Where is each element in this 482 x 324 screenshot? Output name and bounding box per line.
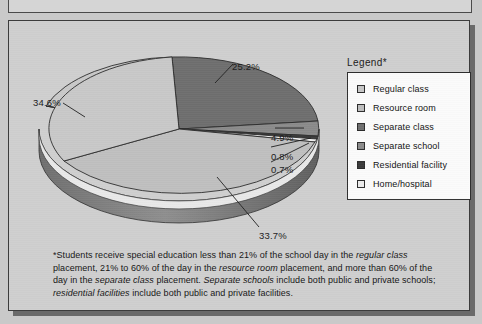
- legend-swatch-icon: [357, 104, 365, 112]
- legend-item-label: Residential facility: [373, 160, 447, 170]
- legend-swatch-icon: [357, 85, 365, 93]
- legend-item-separate-school: Separate school: [348, 136, 470, 155]
- pie-label-resource-room: 33.7%: [259, 230, 287, 241]
- pie-label-separate-class: 25.2%: [232, 61, 260, 72]
- figure-panel: 25.2% 34.6% 4.9% 0.8% 0.7% 33.7% Legend*…: [8, 20, 470, 311]
- footnote-seg-10: residential facilities: [53, 288, 130, 298]
- panel-shadow-bottom: [13, 311, 475, 316]
- footnote: *Students receive special education less…: [53, 249, 443, 299]
- legend-swatch-icon: [357, 161, 365, 169]
- legend-item-regular-class: Regular class: [348, 79, 470, 98]
- footnote-seg-3: placement, 21% to 60% of the day in the: [53, 263, 219, 273]
- pie-label-regular-class: 34.6%: [33, 97, 61, 108]
- legend-item-resource-room: Resource room: [348, 98, 470, 117]
- pie-chart: 25.2% 34.6% 4.9% 0.8% 0.7% 33.7%: [19, 33, 339, 243]
- legend-swatch-icon: [357, 180, 365, 188]
- cropped-top-box: [8, 0, 472, 13]
- footnote-seg-2: regular class: [356, 250, 408, 260]
- legend-box: Regular class Resource room Separate cla…: [347, 72, 471, 200]
- legend-item-label: Home/hospital: [373, 179, 432, 189]
- legend-item-label: Regular class: [373, 84, 429, 94]
- legend-item-label: Separate class: [373, 122, 434, 132]
- pie-label-residential-facility: 0.8%: [271, 151, 293, 162]
- footnote-seg-4: resource room: [219, 263, 278, 273]
- footnote-seg-7: placement.: [154, 275, 201, 285]
- legend-item-residential-facility: Residential facility: [348, 155, 470, 174]
- legend-swatch-icon: [357, 142, 365, 150]
- footnote-seg-6: separate class: [95, 275, 154, 285]
- pie-label-separate-school: 4.9%: [271, 132, 293, 143]
- legend-title: Legend*: [347, 57, 387, 68]
- legend-item-label: Resource room: [373, 103, 436, 113]
- legend-item-separate-class: Separate class: [348, 117, 470, 136]
- footnote-seg-11: include both public and private faciliti…: [132, 288, 293, 298]
- legend-swatch-icon: [357, 123, 365, 131]
- footnote-seg-8: Separate schools: [203, 275, 273, 285]
- footnote-seg-1: *Students receive special education less…: [53, 250, 353, 260]
- legend-item-home-hospital: Home/hospital: [348, 174, 470, 193]
- pie-label-home-hospital: 0.7%: [271, 164, 293, 175]
- footnote-seg-9: include both public and private schools;: [274, 275, 436, 285]
- legend-item-label: Separate school: [373, 141, 440, 151]
